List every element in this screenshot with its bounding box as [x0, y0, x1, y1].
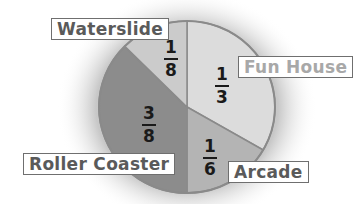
fraction-arcade: 16 — [203, 138, 217, 178]
denominator: 6 — [204, 161, 216, 178]
label-roller-coaster: Roller Coaster — [23, 153, 175, 175]
numerator: 1 — [216, 66, 228, 83]
numerator: 1 — [204, 138, 216, 155]
denominator: 8 — [165, 62, 177, 79]
denominator: 3 — [216, 89, 228, 106]
numerator: 3 — [143, 105, 155, 122]
fraction-roller-coaster: 38 — [142, 105, 156, 145]
label-fun-house: Fun House — [238, 56, 353, 78]
fraction-fun-house: 13 — [215, 66, 229, 106]
label-waterslide: Waterslide — [51, 18, 169, 40]
denominator: 8 — [143, 128, 155, 145]
fraction-waterslide: 18 — [164, 39, 178, 79]
numerator: 1 — [165, 39, 177, 56]
label-arcade: Arcade — [228, 161, 309, 183]
